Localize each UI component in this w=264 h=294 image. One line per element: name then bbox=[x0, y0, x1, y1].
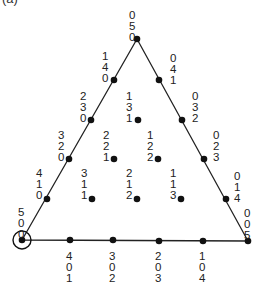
lattice-point-131: 131 bbox=[126, 90, 141, 124]
point-label-digit: 2 bbox=[109, 272, 115, 284]
point-label-digit: 3 bbox=[213, 151, 219, 163]
point-dot bbox=[156, 238, 163, 245]
point-label-digit: 0 bbox=[102, 72, 108, 84]
point-label-digit: 4 bbox=[199, 272, 206, 284]
lattice-points: 0501400412301310323202211220234103112121… bbox=[18, 9, 251, 284]
lattice-point-230: 230 bbox=[80, 90, 94, 124]
lattice-point-041: 041 bbox=[156, 52, 177, 86]
point-label-digit: 0 bbox=[80, 112, 86, 124]
lattice-point-212: 212 bbox=[126, 167, 140, 202]
point-label-digit: 1 bbox=[81, 189, 87, 201]
lattice-point-410: 410 bbox=[36, 167, 50, 202]
lattice-point-320: 320 bbox=[58, 129, 72, 163]
lattice-point-050: 050 bbox=[129, 9, 140, 43]
point-dot bbox=[67, 237, 74, 244]
lattice-point-005: 005 bbox=[244, 207, 251, 244]
lattice-point-140: 140 bbox=[102, 50, 117, 84]
point-label-digit: 0 bbox=[129, 31, 135, 43]
lattice-point-203: 203 bbox=[155, 238, 162, 284]
lattice-point-032: 032 bbox=[179, 90, 199, 124]
lattice-point-221: 221 bbox=[103, 129, 117, 163]
point-label-digit: 2 bbox=[126, 189, 132, 201]
lattice-point-122: 122 bbox=[147, 129, 161, 163]
point-dot bbox=[89, 196, 96, 203]
lattice-point-302: 302 bbox=[109, 237, 116, 284]
point-label-digit: 3 bbox=[155, 272, 161, 284]
point-dot bbox=[88, 117, 95, 124]
lattice-point-014: 014 bbox=[223, 170, 241, 204]
point-label-digit: 3 bbox=[170, 189, 176, 201]
lattice-point-104: 104 bbox=[199, 238, 206, 284]
lattice-point-113: 113 bbox=[170, 167, 184, 202]
point-dot bbox=[111, 156, 118, 163]
point-label-digit: 2 bbox=[192, 112, 198, 124]
point-dot bbox=[201, 156, 208, 163]
point-label-digit: 1 bbox=[170, 74, 176, 86]
point-label-digit: 5 bbox=[244, 229, 250, 241]
point-label-digit: 0 bbox=[58, 151, 64, 163]
lattice-point-401: 401 bbox=[66, 237, 73, 284]
point-dot bbox=[111, 77, 118, 84]
point-label-digit: 1 bbox=[66, 272, 72, 284]
point-dot bbox=[155, 156, 162, 163]
point-dot bbox=[200, 238, 207, 245]
point-dot bbox=[135, 117, 142, 124]
lattice-point-311: 311 bbox=[81, 167, 95, 202]
point-label-digit: 0 bbox=[18, 228, 24, 240]
point-label-digit: 1 bbox=[126, 112, 132, 124]
point-dot bbox=[44, 196, 51, 203]
point-dot bbox=[179, 117, 186, 124]
point-label-digit: 4 bbox=[234, 192, 241, 204]
point-dot bbox=[223, 196, 230, 203]
point-label-digit: 2 bbox=[147, 151, 153, 163]
point-label-digit: 0 bbox=[36, 189, 42, 201]
lattice-point-023: 023 bbox=[201, 129, 220, 163]
ternary-lattice-diagram: 0501400412301310323202211220234103112121… bbox=[0, 0, 264, 294]
lattice-point-500: 500 bbox=[18, 206, 25, 243]
point-dot bbox=[66, 156, 73, 163]
point-dot bbox=[178, 196, 185, 203]
point-label-digit: 1 bbox=[103, 151, 109, 163]
point-dot bbox=[156, 77, 163, 84]
point-dot bbox=[110, 237, 117, 244]
point-dot bbox=[134, 196, 141, 203]
